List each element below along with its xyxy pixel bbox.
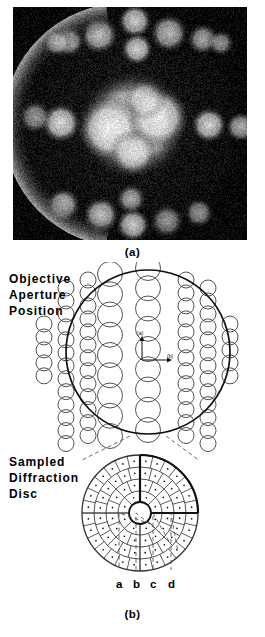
panel-a-caption: (a) — [0, 246, 265, 258]
ring-label-b: b — [133, 578, 140, 590]
aperture-marker-a: (a) — [137, 330, 144, 336]
ring-label-a: a — [116, 578, 122, 590]
panel-b-schematic: (a)(b) Objective Aperture Position Sampl… — [0, 262, 265, 608]
objective-label-line-1: Objective — [9, 271, 71, 287]
panel-b-caption: (b) — [0, 608, 265, 620]
figure-root: (a) (a)(b) Objective Aperture Position S… — [0, 0, 265, 637]
sampled-label-line-1: Sampled — [9, 454, 79, 470]
diffraction-pattern-image — [13, 7, 247, 240]
objective-label-line-3: Position — [9, 303, 71, 319]
panel-a-diffraction-photograph — [13, 7, 247, 240]
objective-label-line-2: Aperture — [9, 287, 71, 303]
ring-label-c: c — [150, 578, 156, 590]
aperture-marker-b: (b) — [167, 353, 174, 359]
sampled-diffraction-disc-label: Sampled Diffraction Disc — [9, 454, 79, 502]
ring-label-d: d — [168, 578, 175, 590]
sampled-disc-group — [82, 455, 198, 571]
objective-aperture-position-label: Objective Aperture Position — [9, 271, 71, 319]
sampled-label-line-3: Disc — [9, 486, 79, 502]
sampled-label-line-2: Diffraction — [9, 470, 79, 486]
